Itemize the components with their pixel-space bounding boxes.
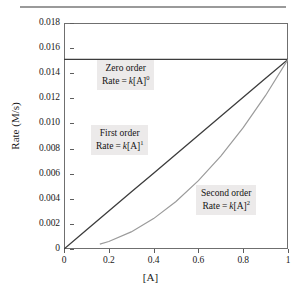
annotation-formula: Rate=k[A]1: [96, 140, 143, 153]
y-tick-mark: [70, 224, 74, 225]
annotation-formula: Rate=k[A]0: [102, 75, 149, 88]
annotation-zero-order: Zero order Rate=k[A]0: [97, 60, 154, 90]
x-tick-label: 0: [49, 255, 79, 265]
x-tick-label: 0.6: [183, 255, 213, 265]
y-tick-mark: [70, 199, 74, 200]
concentration-bracket: [A]: [133, 76, 146, 86]
equals-sign: =: [220, 201, 229, 211]
equals-sign: =: [119, 76, 128, 86]
y-axis-title: Rate (M/s): [9, 81, 21, 171]
y-tick-label: 0.004: [14, 194, 60, 204]
y-tick-mark: [70, 123, 74, 124]
y-tick-mark: [70, 249, 74, 250]
y-tick-mark: [70, 73, 74, 74]
annotation-second-order: Second order Rate=k[A]2: [196, 185, 256, 215]
exponent: 2: [247, 198, 250, 205]
x-tick-mark: [154, 249, 155, 253]
x-tick-mark: [109, 249, 110, 253]
x-tick-mark: [243, 249, 244, 253]
exponent: 0: [146, 73, 149, 80]
x-tick-mark: [198, 249, 199, 253]
y-tick-mark: [70, 149, 74, 150]
y-tick-label: 0.002: [14, 219, 60, 229]
annotation-first-order: First order Rate=k[A]1: [91, 125, 148, 155]
y-tick-mark: [70, 174, 74, 175]
y-tick-mark: [70, 98, 74, 99]
y-tick-label: 0.018: [14, 18, 60, 28]
rate-label: Rate: [102, 76, 119, 86]
annotation-title: Zero order: [102, 62, 149, 75]
annotation-formula: Rate=k[A]2: [201, 200, 251, 213]
x-tick-label: 1: [273, 255, 301, 265]
x-tick-label: 0.8: [228, 255, 258, 265]
x-tick-mark: [64, 249, 65, 253]
x-axis-title: [A]: [0, 271, 301, 283]
concentration-bracket: [A]: [233, 201, 246, 211]
concentration-bracket: [A]: [127, 141, 140, 151]
annotation-title: First order: [96, 127, 143, 140]
x-tick-label: 0.4: [139, 255, 169, 265]
rate-label: Rate: [96, 141, 113, 151]
equals-sign: =: [113, 141, 122, 151]
reaction-order-figure: 00.0020.0040.0060.0080.0100.0120.0140.01…: [0, 0, 301, 301]
annotation-title: Second order: [201, 187, 251, 200]
x-tick-mark: [288, 249, 289, 253]
rate-label: Rate: [202, 201, 219, 211]
y-tick-label: 0: [14, 244, 60, 254]
y-tick-label: 0.016: [14, 43, 60, 53]
x-tick-label: 0.2: [94, 255, 124, 265]
y-tick-label: 0.014: [14, 68, 60, 78]
y-tick-mark: [70, 48, 74, 49]
y-tick-mark: [70, 23, 74, 24]
exponent: 1: [140, 138, 143, 145]
